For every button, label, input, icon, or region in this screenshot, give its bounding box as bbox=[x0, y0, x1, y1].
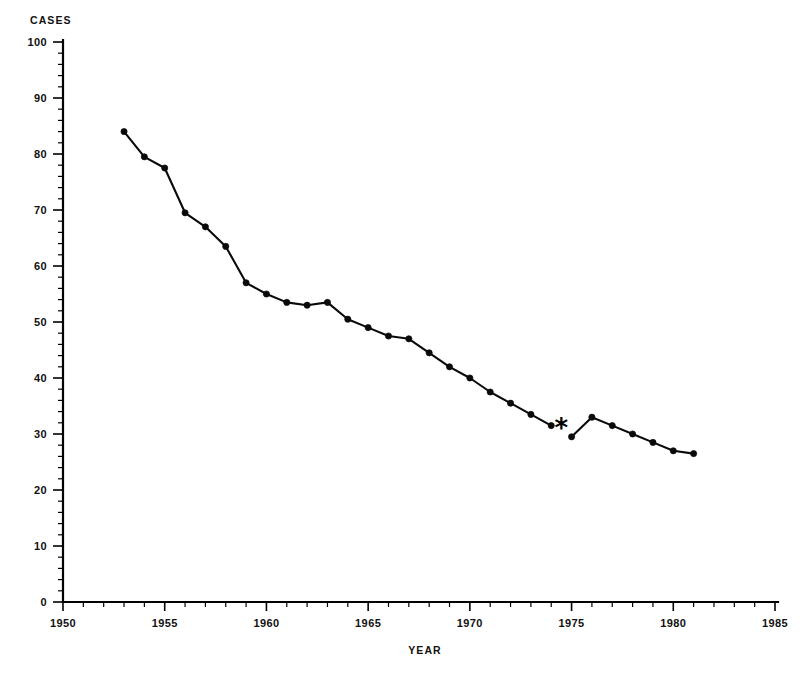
annotations: * bbox=[555, 413, 569, 443]
data-point bbox=[446, 364, 452, 370]
data-point bbox=[589, 414, 595, 420]
y-tick-label: 20 bbox=[34, 484, 47, 496]
data-point bbox=[324, 299, 330, 305]
x-axis-title: YEAR bbox=[408, 644, 442, 656]
data-point bbox=[141, 154, 147, 160]
data-point bbox=[345, 316, 351, 322]
y-tick-label: 60 bbox=[34, 260, 47, 272]
x-tick-label: 1965 bbox=[355, 617, 381, 629]
y-axis-title: CASES bbox=[30, 14, 72, 26]
data-point bbox=[426, 350, 432, 356]
data-point bbox=[467, 375, 473, 381]
y-tick-label: 90 bbox=[34, 92, 47, 104]
line-chart: 0102030405060708090100 19501955196019651… bbox=[0, 0, 803, 675]
data-point bbox=[202, 224, 208, 230]
data-point bbox=[284, 299, 290, 305]
x-tick-label: 1950 bbox=[50, 617, 76, 629]
data-point bbox=[406, 336, 412, 342]
data-point bbox=[568, 434, 574, 440]
data-point bbox=[670, 448, 676, 454]
data-point bbox=[548, 423, 554, 429]
data-point bbox=[528, 411, 534, 417]
methodology-break-marker-icon: * bbox=[555, 413, 569, 443]
x-tick-label: 1970 bbox=[457, 617, 483, 629]
data-point bbox=[162, 165, 168, 171]
x-tick-label: 1960 bbox=[253, 617, 279, 629]
y-tick-label: 70 bbox=[34, 204, 47, 216]
data-point bbox=[182, 210, 188, 216]
data-point bbox=[487, 389, 493, 395]
y-tick-label: 100 bbox=[27, 36, 47, 48]
data-point bbox=[243, 280, 249, 286]
data-point bbox=[507, 400, 513, 406]
data-point bbox=[223, 243, 229, 249]
data-point bbox=[630, 431, 636, 437]
data-point bbox=[691, 451, 697, 457]
x-tick-label: 1980 bbox=[660, 617, 686, 629]
chart-container: 0102030405060708090100 19501955196019651… bbox=[0, 0, 803, 675]
data-point bbox=[263, 291, 269, 297]
data-point bbox=[650, 439, 656, 445]
y-tick-label: 30 bbox=[34, 428, 47, 440]
y-tick-label: 50 bbox=[34, 316, 47, 328]
y-tick-label: 0 bbox=[40, 596, 47, 608]
x-tick-label: 1985 bbox=[762, 617, 788, 629]
data-point bbox=[609, 423, 615, 429]
data-point bbox=[365, 325, 371, 331]
x-tick-label: 1975 bbox=[559, 617, 585, 629]
data-point bbox=[121, 129, 127, 135]
y-tick-label: 10 bbox=[34, 540, 47, 552]
data-point bbox=[304, 302, 310, 308]
y-tick-label: 40 bbox=[34, 372, 47, 384]
x-tick-label: 1955 bbox=[152, 617, 178, 629]
data-point bbox=[385, 333, 391, 339]
y-tick-label: 80 bbox=[34, 148, 47, 160]
